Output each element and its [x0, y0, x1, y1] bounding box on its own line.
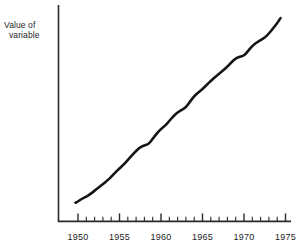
x-tick-label-1: 1955: [109, 232, 130, 242]
data-series-line: [76, 18, 281, 203]
x-axis-major-ticks: [78, 213, 286, 221]
plot-area: 1950 1955 1960 1965 1970 1975: [0, 0, 303, 248]
x-tick-label-4: 1970: [234, 232, 255, 242]
x-tick-label-2: 1960: [151, 232, 172, 242]
x-tick-label-5: 1975: [275, 232, 296, 242]
chart-figure: Value of variable: [0, 0, 303, 248]
x-tick-label-0: 1950: [68, 232, 89, 242]
x-tick-label-3: 1965: [192, 232, 213, 242]
